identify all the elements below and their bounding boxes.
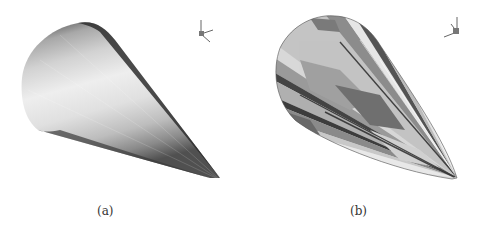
axis-triad-icon [441,14,465,42]
figure-panel-b: (b) [240,0,480,229]
figure-panel-a: (a) [0,0,240,229]
caption-a: (a) [97,204,114,218]
axis-triad-icon [196,16,218,46]
caption-b: (b) [350,204,367,218]
